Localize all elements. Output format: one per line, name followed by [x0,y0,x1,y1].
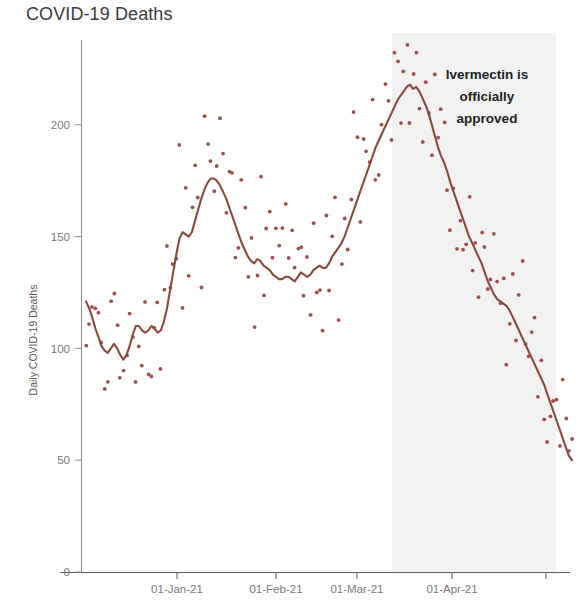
scatter-point [191,205,195,209]
scatter-point [549,414,553,418]
scatter-point [337,318,341,322]
scatter-point [508,322,512,326]
scatter-point [570,437,574,441]
scatter-point [268,210,272,214]
scatter-point [443,121,447,125]
scatter-point [495,280,499,284]
scatter-point [558,444,562,448]
scatter-point [118,376,122,380]
scatter-point [396,59,400,63]
scatter-point [140,364,144,368]
scatter-point [455,247,459,251]
scatter-point [250,236,254,240]
scatter-point [412,72,416,76]
scatter-point [408,121,412,125]
scatter-point [358,220,362,224]
scatter-point [122,369,126,373]
scatter-point [137,345,141,349]
scatter-point [290,228,294,232]
scatter-point [237,246,241,250]
scatter-point [165,244,169,248]
scatter-point [340,262,344,266]
scatter-point [436,136,440,140]
scatter-point [315,291,319,295]
scatter-point [312,221,316,225]
bottom-clipped-strip [0,601,581,611]
scatter-point [103,387,107,391]
scatter-point [181,306,185,310]
scatter-point [230,171,234,175]
y-tick-label-0: 0 [64,566,70,578]
scatter-point [109,299,113,303]
annotation-line-1: Ivermectin is [446,67,529,82]
scatter-point [489,278,493,282]
scatter-point [187,274,191,278]
scatter-point [352,110,356,114]
scatter-point [564,417,568,421]
scatter-point [184,186,188,190]
scatter-point [84,344,88,348]
scatter-point [346,248,350,252]
scatter-point [362,137,366,141]
scatter-point [293,266,297,270]
scatter-point [193,163,197,167]
scatter-point [511,272,515,276]
scatter-point [473,241,477,245]
scatter-point [128,312,132,316]
scatter-point [87,322,91,326]
chart-container: COVID-19 Deaths 200 150 100 50 0 Daily C… [0,0,581,611]
scatter-point [406,43,410,47]
x-tick-label-jan: 01-Jan-21 [151,583,203,595]
scatter-point [113,292,117,296]
scatter-point [545,440,549,444]
scatter-point [380,123,384,127]
scatter-point [480,231,484,235]
scatter-point [377,173,381,177]
scatter-point [215,164,219,168]
scatter-point [196,196,200,200]
y-tick-label-50: 50 [57,454,70,466]
y-axis-ticks: 200 150 100 50 0 [51,119,82,578]
scatter-point [163,288,167,292]
scatter-point [390,138,394,142]
scatter-point [256,274,260,278]
scatter-point [504,363,508,367]
scatter-point [90,305,94,309]
scatter-point [502,277,506,281]
scatter-point [259,175,263,179]
scatter-point [373,178,377,182]
scatter-point [159,367,163,371]
scatter-point [225,211,229,215]
scatter-point [551,399,555,403]
scatter-point [430,153,434,157]
scatter-point [271,256,275,260]
scatter-point [309,313,313,317]
scatter-point [356,135,360,139]
scatter-point [384,82,388,86]
scatter-point [218,116,222,120]
y-tick-label-200: 200 [51,119,70,131]
scatter-point [477,295,481,299]
scatter-point [318,288,322,292]
scatter-point [561,378,565,382]
scatter-point [486,287,490,291]
y-tick-label-100: 100 [51,343,70,355]
scatter-point [150,375,154,379]
scatter-point [200,286,204,290]
scatter-point [143,300,147,304]
x-tick-label-mar: 01-Mar-21 [330,583,383,595]
scatter-point [239,178,243,182]
scatter-point [459,219,463,223]
scatter-point [287,256,291,260]
y-axis-title: Daily COVID-19 Deaths [27,285,39,396]
scatter-point [350,198,354,202]
scatter-point [401,69,405,73]
scatter-point [464,242,468,246]
scatter-point [330,234,334,238]
x-tick-label-apr: 01-Apr-21 [426,583,477,595]
x-axis-ticks: 01-Jan-21 01-Feb-21 01-Mar-21 01-Apr-21 [151,573,546,596]
scatter-point [206,142,210,146]
scatter-point [539,358,543,362]
scatter-point [177,143,181,147]
scatter-point [333,195,337,199]
